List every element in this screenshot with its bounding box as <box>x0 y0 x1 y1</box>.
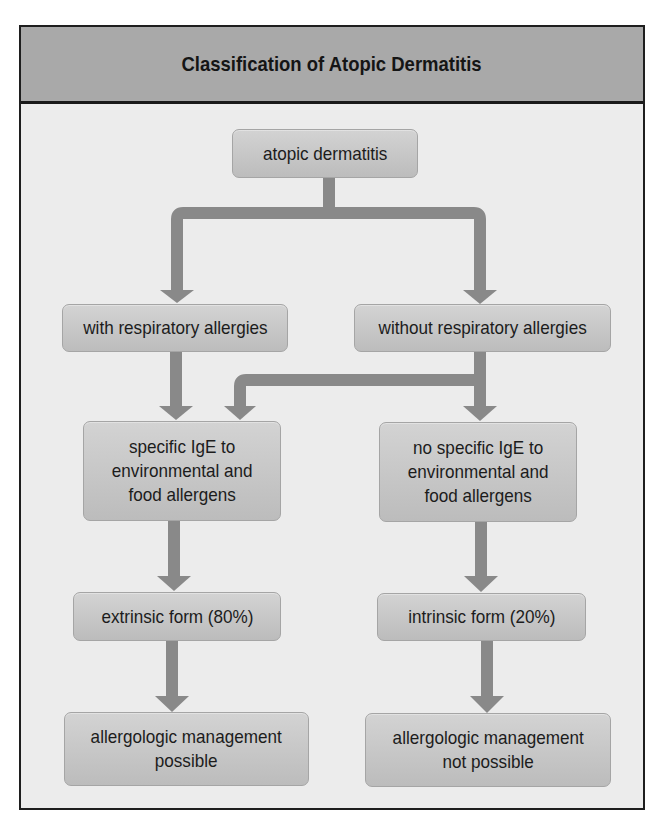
node-label: without respiratory allergies <box>378 316 586 340</box>
arrowhead-icon <box>463 406 497 421</box>
arrowhead-icon <box>160 290 194 303</box>
node-label: with respiratory allergies <box>83 316 267 340</box>
edge-without-specific <box>240 380 480 408</box>
edge-root-right <box>329 213 480 292</box>
node-label: atopic dermatitis <box>263 142 388 166</box>
arrowhead-icon <box>464 576 498 592</box>
node-label: allergologic management not possible <box>392 726 583 774</box>
node-intrinsic-form: intrinsic form (20%) <box>377 593 586 641</box>
node-management-not-possible: allergologic management not possible <box>365 713 611 787</box>
arrowhead-icon <box>159 406 193 420</box>
connector-arrows <box>0 0 662 827</box>
node-specific-ige: specific IgE to environmental and food a… <box>83 421 281 521</box>
arrowhead-icon <box>470 696 504 713</box>
edge-root-split <box>177 178 329 292</box>
node-label: allergologic management possible <box>91 725 282 773</box>
node-no-specific-ige: no specific IgE to environmental and foo… <box>379 422 577 522</box>
node-label: specific IgE to environmental and food a… <box>112 435 253 507</box>
node-management-possible: allergologic management possible <box>64 712 309 786</box>
arrowhead-icon <box>157 576 191 591</box>
node-extrinsic-form: extrinsic form (80%) <box>73 592 281 641</box>
node-atopic-dermatitis: atopic dermatitis <box>232 129 418 178</box>
arrowhead-icon <box>155 696 189 712</box>
node-without-respiratory-allergies: without respiratory allergies <box>354 304 611 352</box>
arrowhead-icon <box>463 290 497 304</box>
arrowhead-icon <box>224 406 256 420</box>
node-label: intrinsic form (20%) <box>408 605 555 629</box>
node-with-respiratory-allergies: with respiratory allergies <box>62 304 288 352</box>
node-label: extrinsic form (80%) <box>101 605 253 629</box>
node-label: no specific IgE to environmental and foo… <box>408 436 549 508</box>
